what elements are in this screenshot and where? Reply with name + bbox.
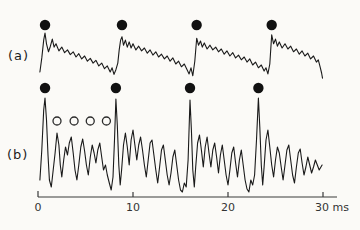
filled-dot-marker [40,83,50,93]
open-circle-marker [70,117,78,125]
filled-dot-marker [267,20,277,30]
filled-dot-marker [253,83,263,93]
filled-dot-marker [191,20,201,30]
x-tick-label: 20 [221,201,235,214]
filled-dot-marker [40,20,50,30]
x-tick-label: 0 [35,201,42,214]
filled-dot-marker [117,20,127,30]
open-circle-marker [102,117,110,125]
figure-canvas: 0102030 ms [0,0,360,230]
waveform-figure: (a) (b) 0102030 ms [0,0,360,230]
filled-dot-marker [185,83,195,93]
trace-a-waveform [40,33,323,78]
filled-dot-marker [111,83,121,93]
trace-b-waveform [40,98,322,192]
x-tick-label: 30 ms [315,201,349,214]
x-tick-label: 10 [126,201,140,214]
open-circle-marker [86,117,94,125]
open-circle-marker [53,117,61,125]
